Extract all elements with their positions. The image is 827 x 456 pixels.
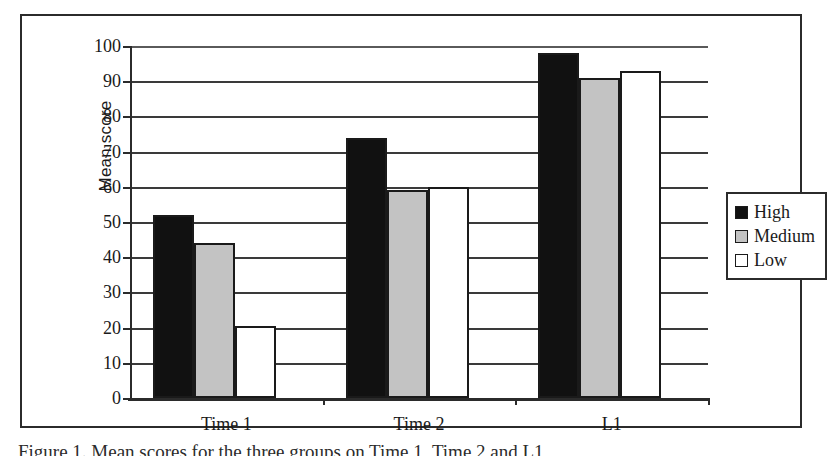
x-tick-mark [708,398,710,405]
x-tick-mark [515,398,517,405]
bar-medium-time-2 [387,190,428,398]
bar-high-l1 [538,53,579,398]
legend-swatch-icon [735,230,748,243]
y-tick-mark [123,187,130,189]
y-tick-mark [123,222,130,224]
bar-high-time-1 [153,215,194,398]
bar-low-time-2 [428,187,469,398]
bar-low-l1 [620,71,661,398]
legend-swatch-icon [735,254,748,267]
legend-swatch-icon [735,206,748,219]
y-tick-label: 0 [112,388,121,409]
y-tick-mark [123,116,130,118]
y-tick-mark [123,46,130,48]
y-tick-label: 70 [103,141,121,162]
legend-label: Medium [754,226,815,247]
x-tick-mark [323,398,325,405]
y-tick-label: 80 [103,106,121,127]
x-tick-label: Time 2 [394,414,445,435]
legend-item-low[interactable]: Low [735,248,815,272]
y-tick-mark [123,81,130,83]
y-tick-label: 60 [103,176,121,197]
y-axis-line [130,46,132,398]
chart-frame: Mean score 0102030405060708090100 Time 1… [20,14,802,428]
bar-medium-time-1 [194,243,235,398]
gridline [130,46,708,48]
y-tick-label: 100 [94,36,121,57]
y-tick-mark [123,292,130,294]
x-tick-label: L1 [602,414,622,435]
x-axis-line [128,398,710,401]
legend-item-medium[interactable]: Medium [735,224,815,248]
bar-low-time-1 [235,326,276,398]
y-tick-label: 90 [103,71,121,92]
legend-label: Low [754,250,787,271]
y-tick-mark [123,328,130,330]
bar-medium-l1 [579,78,620,398]
legend-item-high[interactable]: High [735,200,815,224]
legend: HighMediumLow [726,192,827,280]
y-tick-mark [123,257,130,259]
plot-area: 0102030405060708090100 Time 1Time 2L1 [130,46,708,398]
y-tick-label: 30 [103,282,121,303]
y-tick-label: 40 [103,247,121,268]
x-tick-label: Time 1 [201,414,252,435]
y-tick-label: 20 [103,317,121,338]
y-tick-mark [123,363,130,365]
y-tick-label: 10 [103,352,121,373]
bar-high-time-2 [346,138,387,398]
y-tick-mark [123,152,130,154]
figure-caption: Figure 1. Mean scores for the three grou… [18,441,808,456]
legend-label: High [754,202,790,223]
y-tick-label: 50 [103,212,121,233]
